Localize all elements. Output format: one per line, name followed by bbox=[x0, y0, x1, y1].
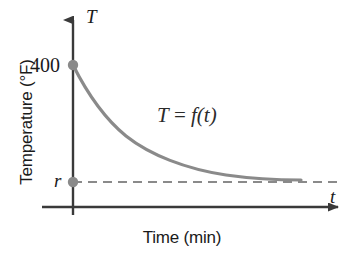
temperature-cooling-figure: Temperature (°F) Time (min) 400 r T t T … bbox=[0, 0, 356, 257]
curve-equation-rhs: f(t) bbox=[191, 103, 217, 127]
marker-ambient-temperature bbox=[68, 177, 78, 187]
y-axis-symbol-label: T bbox=[86, 6, 97, 28]
x-axis-symbol-label: t bbox=[330, 186, 335, 208]
y-tick-label-r: r bbox=[54, 170, 61, 192]
marker-initial-temperature bbox=[68, 60, 78, 70]
y-tick-label-400: 400 bbox=[30, 54, 60, 77]
curve-equation-operator: = bbox=[169, 103, 191, 127]
curve-equation-lhs: T bbox=[157, 103, 169, 127]
plot-area bbox=[0, 0, 356, 257]
x-axis-title: Time (min) bbox=[112, 228, 252, 248]
curve-equation-label: T = f(t) bbox=[157, 103, 217, 128]
